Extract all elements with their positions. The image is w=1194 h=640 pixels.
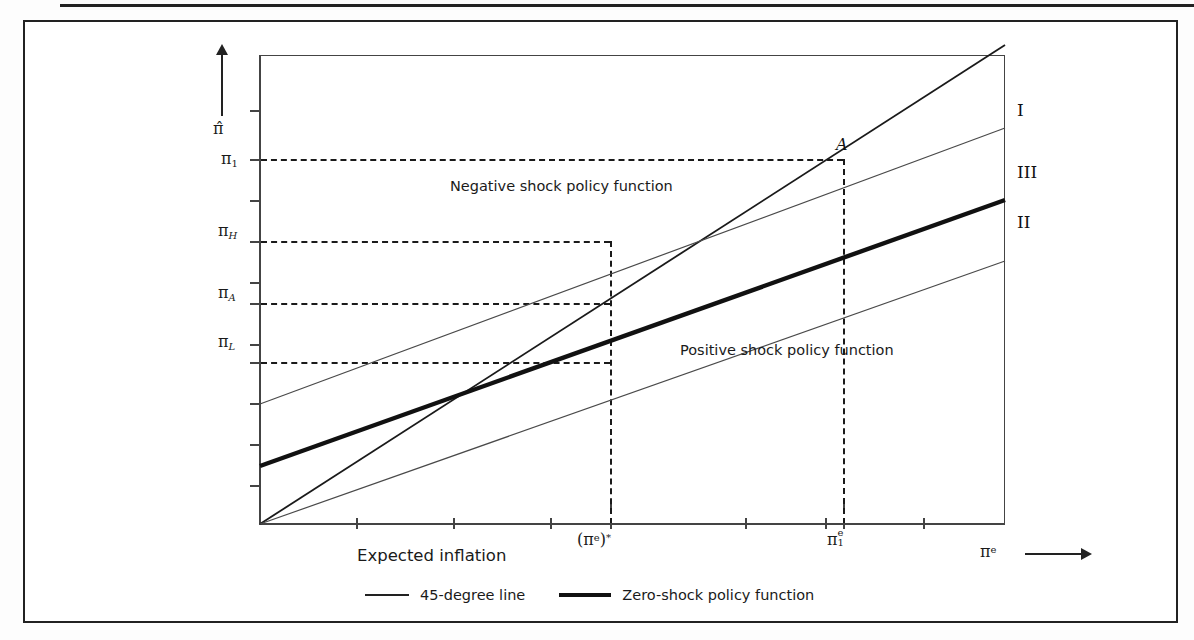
- curve-label-III: III: [1017, 162, 1037, 182]
- figure-frame: π̂ πe Inflation policy Expected inflatio…: [23, 20, 1178, 623]
- y-axis-symbol: π̂: [213, 119, 224, 138]
- curve-II-positive-shock: [260, 261, 1005, 524]
- curves-svg: [260, 55, 1005, 524]
- curve-label-II: II: [1017, 212, 1030, 232]
- x-axis-arrow-icon: [1025, 553, 1081, 555]
- curve-I-negative-shock: [260, 128, 1005, 404]
- annotation-negative-shock: Negative shock policy function: [450, 178, 673, 194]
- y-label-pi1: π1: [221, 149, 238, 169]
- x-label-pi1e: πe1: [827, 528, 844, 549]
- y-label-piL: πL: [218, 332, 235, 352]
- legend-swatch-thick-line-icon: [559, 593, 611, 597]
- legend-item-zero-shock: Zero-shock policy function: [559, 587, 814, 603]
- plot-area: [260, 55, 1005, 524]
- x-axis-symbol: πe: [980, 542, 996, 561]
- legend-label-45-degree: 45-degree line: [420, 587, 525, 603]
- legend-swatch-thin-line-icon: [365, 594, 409, 595]
- curve-III-zero-shock: [260, 200, 1005, 466]
- annotation-positive-shock: Positive shock policy function: [680, 342, 894, 358]
- legend-item-45-degree: 45-degree line: [365, 587, 525, 603]
- x-axis-title: Expected inflation: [357, 546, 506, 565]
- chart-legend: 45-degree line Zero-shock policy functio…: [365, 587, 814, 603]
- point-label-A: A: [836, 135, 848, 154]
- curve-45-degree-line: [260, 45, 1005, 524]
- legend-label-zero-shock: Zero-shock policy function: [622, 587, 814, 603]
- y-axis-arrow-icon: [221, 54, 223, 116]
- top-rule-divider: [60, 4, 1194, 7]
- y-label-piH: πH: [218, 221, 237, 241]
- curve-label-I: I: [1017, 100, 1024, 120]
- figure-page: π̂ πe Inflation policy Expected inflatio…: [0, 0, 1194, 640]
- x-label-pie-star: (πe)*: [577, 530, 611, 549]
- y-label-piA: πA: [218, 283, 236, 303]
